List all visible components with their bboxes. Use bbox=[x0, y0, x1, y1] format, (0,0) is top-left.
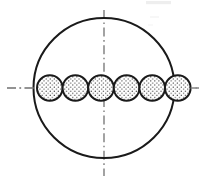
stippled-circle bbox=[139, 75, 165, 101]
stippled-circle bbox=[114, 75, 140, 101]
technical-drawing-figure bbox=[0, 0, 205, 182]
stippled-circle bbox=[63, 75, 89, 101]
drawing-canvas bbox=[0, 0, 205, 182]
stippled-circle bbox=[165, 75, 191, 101]
stippled-circle bbox=[37, 75, 63, 101]
stippled-circle bbox=[88, 75, 114, 101]
